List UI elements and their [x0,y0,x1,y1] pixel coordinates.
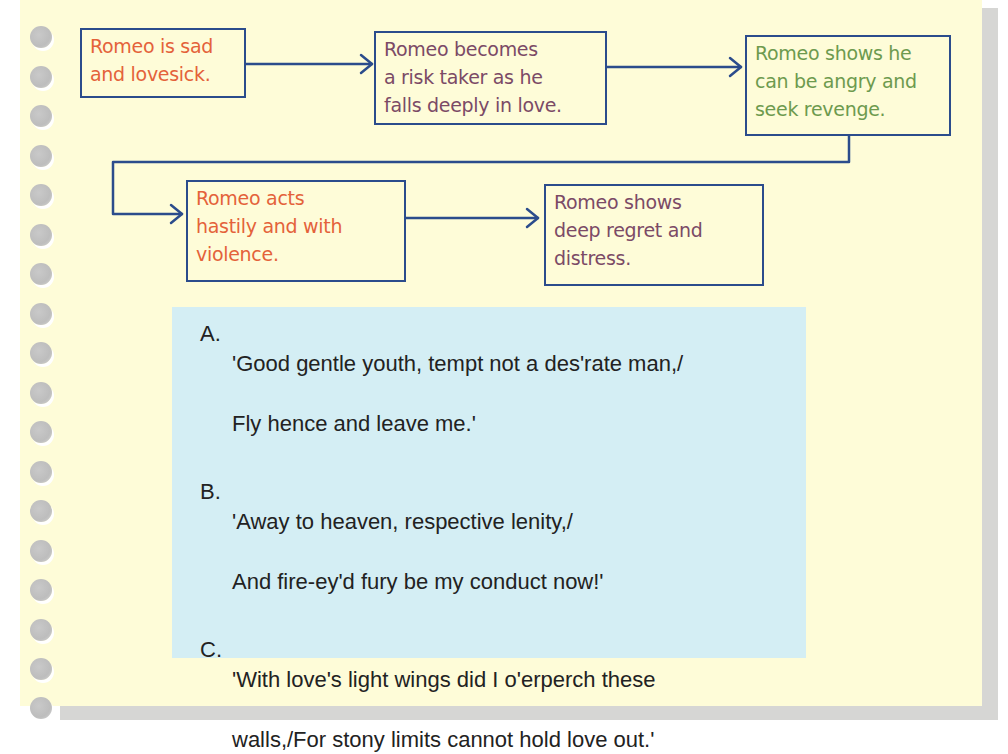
flow-box-sad-lovesick: Romeo is sad and lovesick. [80,28,246,98]
quote-letter: C. [200,635,232,754]
quotes-panel: A. 'Good gentle youth, tempt not a des'r… [172,307,806,658]
quote-letter: B. [200,477,232,627]
flow-box-text: distress. [554,244,756,272]
quote-line: 'Away to heaven, respective lenity,/ [232,507,604,537]
flow-box-text: Romeo shows [554,188,756,216]
quote-item-c: C. 'With love's light wings did I o'erpe… [200,635,806,754]
quote-item-a: A. 'Good gentle youth, tempt not a des'r… [200,319,806,469]
quote-line: walls,/For stony limits cannot hold love… [232,725,655,754]
quote-line: 'Good gentle youth, tempt not a des'rate… [232,349,683,379]
flow-box-text: Romeo is sad [90,32,238,60]
flow-box-text: Romeo shows he [755,39,943,67]
flow-box-text: violence. [196,240,398,268]
flow-box-text: deep regret and [554,216,756,244]
flow-box-text: and lovesick. [90,60,238,88]
quote-line: And fire-ey'd fury be my conduct now!' [232,567,604,597]
flow-box-text: Romeo acts [196,184,398,212]
flow-box-risk-taker: Romeo becomes a risk taker as he falls d… [374,31,607,125]
quote-text: 'Good gentle youth, tempt not a des'rate… [232,319,683,469]
flow-box-angry-revenge: Romeo shows he can be angry and seek rev… [745,35,951,136]
quote-line: 'With love's light wings did I o'erperch… [232,665,655,695]
flow-box-text: a risk taker as he [384,63,599,91]
flow-box-regret-distress: Romeo shows deep regret and distress. [544,184,764,286]
flow-box-text: falls deeply in love. [384,91,599,119]
flow-box-hasty-violence: Romeo acts hastily and with violence. [186,180,406,282]
quote-item-b: B. 'Away to heaven, respective lenity,/ … [200,477,806,627]
quote-letter: A. [200,319,232,469]
quote-text: 'With love's light wings did I o'erperch… [232,635,655,754]
flow-box-text: can be angry and [755,67,943,95]
flow-box-text: seek revenge. [755,95,943,123]
flow-box-text: Romeo becomes [384,35,599,63]
flow-box-text: hastily and with [196,212,398,240]
quote-text: 'Away to heaven, respective lenity,/ And… [232,477,604,627]
quote-line: Fly hence and leave me.' [232,409,683,439]
